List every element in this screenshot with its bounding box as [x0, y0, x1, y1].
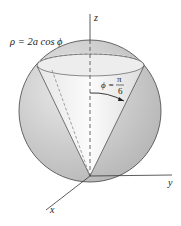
sphere-cone-diagram: z y x ρ = 2a cos ϕ ϕ = π 6	[0, 0, 181, 226]
z-axis-label: z	[93, 12, 98, 23]
y-axis-label: y	[167, 177, 173, 188]
cone-pi-numerator: π	[117, 74, 122, 84]
sphere-equation-label: ρ = 2a cos ϕ	[9, 36, 63, 47]
cone-pi-denominator: 6	[118, 86, 123, 96]
x-axis-label: x	[49, 204, 55, 215]
cone-phi-label: ϕ =	[101, 80, 114, 90]
